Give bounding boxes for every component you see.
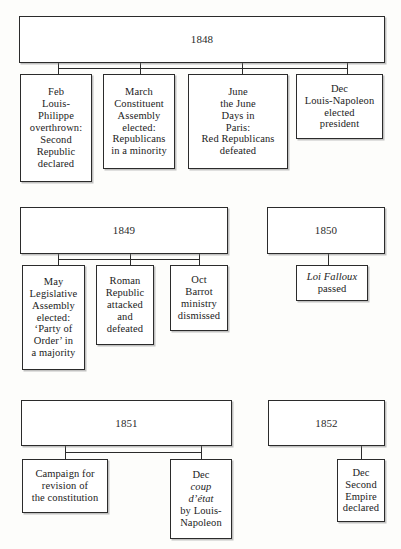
year-label: 1848: [191, 33, 213, 46]
event-line: d’état: [173, 493, 229, 505]
event-line: Loi Falloux: [299, 271, 365, 283]
event-line: elected:: [25, 312, 82, 324]
event-line: Republic: [99, 287, 151, 299]
event-line: May: [25, 276, 82, 288]
event-text: Campaign forrevision ofthe constitution: [25, 468, 105, 504]
event-line: Second: [23, 134, 89, 146]
event-line: a majority: [25, 347, 82, 359]
event-line: Dec: [299, 83, 380, 95]
event-text: Deccoupd’étatby Louis-Napoleon: [173, 469, 229, 529]
event-roman-republic: RomanRepublicattackedanddefeated: [96, 265, 154, 345]
event-line: defeated: [99, 323, 151, 335]
event-line: Assembly: [106, 110, 172, 122]
event-dec-second-empire: DecSecondEmpiredeclared: [337, 459, 385, 522]
event-text: Junethe JuneDays inParis:Red Republicans…: [191, 86, 285, 158]
year-box-1852: 1852: [268, 400, 385, 446]
year-box-1851: 1851: [21, 400, 232, 446]
connector-line: [65, 446, 66, 459]
connector-line: [58, 63, 59, 74]
event-line: declared: [23, 158, 89, 170]
event-line: ministry: [173, 298, 225, 310]
event-march-constituent-assembly: MarchConstituentAssemblyelected:Republic…: [103, 74, 175, 169]
year-box-1848: 1848: [19, 16, 385, 63]
connector-line: [58, 68, 347, 69]
event-line: Republic: [23, 146, 89, 158]
event-line: elected: [299, 107, 380, 119]
event-line: Second: [340, 479, 382, 491]
event-line: Republicans: [106, 133, 172, 145]
event-line: attacked: [99, 299, 151, 311]
event-line: Philippe: [23, 110, 89, 122]
connector-line: [58, 259, 199, 260]
event-line: Constituent: [106, 98, 172, 110]
event-line: Oct: [173, 274, 225, 286]
event-text: RomanRepublicattackedanddefeated: [99, 275, 151, 335]
event-line: the constitution: [25, 492, 105, 504]
event-line: dismissed: [173, 310, 225, 322]
event-june-days: Junethe JuneDays inParis:Red Republicans…: [188, 74, 288, 169]
event-line: in a minority: [106, 145, 172, 157]
event-line: Louis-: [23, 98, 89, 110]
connector-line: [201, 446, 202, 459]
event-line: June: [191, 86, 285, 98]
event-text: DecLouis-Napoleonelectedpresident: [299, 83, 380, 131]
event-line: the June: [191, 98, 285, 110]
year-label: 1851: [115, 417, 137, 430]
event-line: Feb: [23, 86, 89, 98]
event-line: March: [106, 86, 172, 98]
event-text: Loi Fallouxpassed: [299, 271, 365, 295]
year-box-1849: 1849: [20, 207, 228, 254]
event-feb-louis-philippe: FebLouis-Philippeoverthrown:SecondRepubl…: [20, 74, 92, 182]
event-line: coup: [173, 481, 229, 493]
event-dec-louis-napoleon-president: DecLouis-Napoleonelectedpresident: [296, 74, 383, 139]
connector-line: [58, 254, 59, 265]
event-loi-falloux: Loi Fallouxpassed: [296, 265, 368, 301]
event-line: Roman: [99, 275, 151, 287]
connector-line: [242, 63, 243, 74]
year-box-1850: 1850: [267, 207, 385, 254]
connector-line: [347, 63, 348, 74]
event-line: Paris:: [191, 122, 285, 134]
year-label: 1852: [315, 417, 337, 430]
event-line: revision of: [25, 480, 105, 492]
event-line: Empire: [340, 491, 382, 503]
event-line: and: [99, 311, 151, 323]
event-line: Red Republicans: [191, 133, 285, 145]
event-text: DecSecondEmpiredeclared: [340, 467, 382, 515]
event-line: declared: [340, 502, 382, 514]
event-text: OctBarrotministrydismissed: [173, 274, 225, 322]
connector-line: [361, 446, 362, 459]
connector-line: [130, 254, 131, 265]
event-text: FebLouis-Philippeoverthrown:SecondRepubl…: [23, 86, 89, 170]
connector-line: [140, 63, 141, 74]
event-line: Dec: [340, 467, 382, 479]
event-line: Order’ in: [25, 335, 82, 347]
event-campaign-revision-constitution: Campaign forrevision ofthe constitution: [22, 459, 108, 513]
event-line: Louis-Napoleon: [299, 95, 380, 107]
event-line: Campaign for: [25, 468, 105, 480]
event-text: MayLegislativeAssemblyelected:‘Party ofO…: [25, 276, 82, 360]
event-line: Barrot: [173, 286, 225, 298]
event-line: elected:: [106, 122, 172, 134]
connector-line: [328, 254, 329, 265]
event-line: Napoleon: [173, 517, 229, 529]
event-dec-coup-detat: Deccoupd’étatby Louis-Napoleon: [170, 459, 232, 539]
connector-line: [65, 452, 201, 453]
year-label: 1850: [315, 224, 337, 237]
event-line: Assembly: [25, 300, 82, 312]
event-may-legislative-assembly: MayLegislativeAssemblyelected:‘Party ofO…: [22, 265, 85, 370]
event-line: Legislative: [25, 288, 82, 300]
timeline-diagram: 18481849185018511852FebLouis-Philippeove…: [0, 0, 401, 549]
event-line: passed: [299, 283, 365, 295]
connector-line: [199, 254, 200, 265]
event-line: president: [299, 118, 380, 130]
event-line: by Louis-: [173, 505, 229, 517]
year-label: 1849: [113, 224, 135, 237]
event-line: ‘Party of: [25, 323, 82, 335]
event-line: Dec: [173, 469, 229, 481]
event-oct-barrot-ministry: OctBarrotministrydismissed: [170, 265, 228, 331]
event-line: Days in: [191, 110, 285, 122]
event-line: defeated: [191, 145, 285, 157]
event-line: overthrown:: [23, 122, 89, 134]
event-text: MarchConstituentAssemblyelected:Republic…: [106, 86, 172, 158]
